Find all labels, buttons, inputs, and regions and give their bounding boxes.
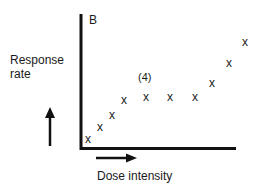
data-point: x xyxy=(83,133,93,145)
up-arrow-icon xyxy=(45,107,55,146)
data-point: x xyxy=(95,121,105,133)
y-axis-label-line2: rate xyxy=(10,67,64,81)
y-axis-label-line1: Response xyxy=(10,53,64,67)
data-point: x xyxy=(119,94,129,106)
y-axis-label: Response rate xyxy=(10,53,64,81)
panel-label: B xyxy=(89,13,97,27)
data-point: x xyxy=(165,91,175,103)
chart-axes xyxy=(0,0,259,192)
data-point: x xyxy=(207,77,217,89)
data-point: x xyxy=(107,109,117,121)
data-point: x xyxy=(224,57,234,69)
x-axis-label: Dose intensity xyxy=(97,169,172,183)
data-point: x xyxy=(240,36,250,48)
data-point: x xyxy=(190,91,200,103)
data-point: x xyxy=(141,91,151,103)
annotation-label: (4) xyxy=(138,71,151,83)
right-arrow-icon xyxy=(96,154,137,163)
